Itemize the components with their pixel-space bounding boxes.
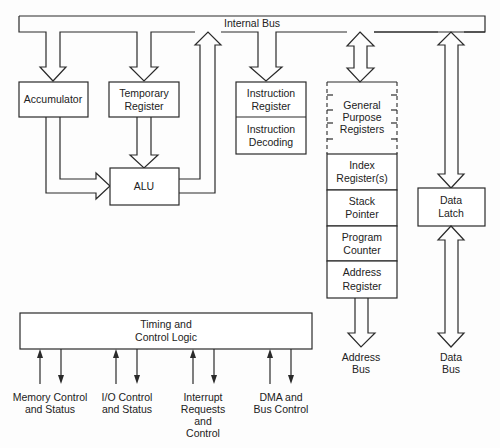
control-signal-labels: Memory Control and Status I/O Control an… xyxy=(13,391,309,439)
accumulator-label: Accumulator xyxy=(24,93,83,105)
program-counter-label-2: Counter xyxy=(343,244,381,256)
address-bus-label-1: Address xyxy=(342,351,381,363)
instruction-block: Instruction Register Instruction Decodin… xyxy=(236,82,306,154)
control-signal-arrows xyxy=(37,349,294,384)
stack-pointer-label-1: Stack xyxy=(349,195,376,207)
interrupt-label-3: and xyxy=(194,415,212,427)
register-file: General Purpose Registers Index Register… xyxy=(327,82,397,298)
io-control-label-1: I/O Control xyxy=(102,391,153,403)
internal-bus-label: Internal Bus xyxy=(224,17,280,29)
temp-to-alu-arrow xyxy=(130,117,158,168)
instr-dec-label-1: Instruction xyxy=(247,123,296,135)
data-latch-block: Data Latch xyxy=(418,188,485,226)
bus-to-data-latch-arrow xyxy=(438,32,464,188)
gpr-label-2: Purpose xyxy=(342,111,381,123)
accumulator-to-alu-arrow xyxy=(46,117,110,199)
index-reg-label-1: Index xyxy=(349,159,375,171)
data-latch-label-2: Latch xyxy=(438,207,464,219)
temp-reg-label-1: Temporary xyxy=(119,87,169,99)
alu-block: ALU xyxy=(110,168,179,205)
gpr-label-3: Registers xyxy=(340,123,384,135)
io-control-label-2: and Status xyxy=(102,403,152,415)
timing-label-2: Control Logic xyxy=(135,331,197,343)
timing-label-1: Timing and xyxy=(140,318,192,330)
data-bus-label-1: Data xyxy=(440,351,462,363)
temp-reg-label-2: Register xyxy=(124,100,164,112)
dma-label-2: Bus Control xyxy=(254,403,309,415)
address-reg-label-2: Register xyxy=(342,280,382,292)
interrupt-label-2: Requests xyxy=(181,403,225,415)
alu-label: ALU xyxy=(134,180,154,192)
address-reg-label-1: Address xyxy=(343,266,382,278)
data-bus-label-2: Bus xyxy=(442,363,460,375)
address-bus-arrow xyxy=(348,298,375,347)
data-bus-arrow xyxy=(438,226,464,347)
address-bus-label-2: Bus xyxy=(352,363,370,375)
instr-reg-label-2: Register xyxy=(251,100,291,112)
instr-dec-label-2: Decoding xyxy=(249,136,294,148)
gpr-label-1: General xyxy=(343,99,380,111)
diagram-canvas: Internal Bus Accumulator Temporary Regis… xyxy=(0,0,500,448)
data-latch-label-1: Data xyxy=(440,194,462,206)
instr-reg-label-1: Instruction xyxy=(247,87,296,99)
cpu-block-diagram: Internal Bus Accumulator Temporary Regis… xyxy=(0,0,500,448)
interrupt-label-1: Interrupt xyxy=(183,391,222,403)
bus-register-file-arrow xyxy=(347,32,374,82)
accumulator-block: Accumulator xyxy=(19,82,88,117)
temporary-register-block: Temporary Register xyxy=(109,82,179,117)
index-reg-label-2: Register(s) xyxy=(336,172,387,184)
stack-pointer-label-2: Pointer xyxy=(345,208,379,220)
memory-control-label-2: and Status xyxy=(25,403,75,415)
dma-label-1: DMA and xyxy=(259,391,302,403)
internal-bus: Internal Bus xyxy=(19,16,485,81)
program-counter-label-1: Program xyxy=(342,231,383,243)
memory-control-label-1: Memory Control xyxy=(13,391,88,403)
interrupt-label-4: Control xyxy=(186,427,220,439)
alu-to-bus-arrow xyxy=(179,32,221,193)
timing-control-block: Timing and Control Logic xyxy=(20,313,312,349)
